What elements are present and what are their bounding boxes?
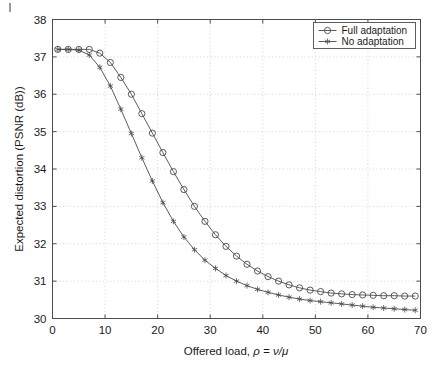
x-tick-label: 40: [256, 324, 269, 336]
chart-plot: 010203040506070303132333435363738 Full a…: [0, 0, 438, 366]
y-tick-label: 33: [34, 200, 47, 212]
y-tick-label: 38: [34, 14, 47, 26]
series-no-adaptation: [55, 46, 418, 313]
y-tick-label: 31: [34, 275, 47, 287]
x-tick-label: 20: [151, 324, 164, 336]
y-tick-label: 32: [34, 238, 47, 250]
x-tick-label: 50: [309, 324, 322, 336]
x-tick-label: 10: [99, 324, 112, 336]
y-tick-label: 30: [34, 313, 47, 325]
data-series-layer: [55, 46, 419, 313]
x-tick-label: 60: [362, 324, 375, 336]
y-tick-label: 35: [34, 126, 47, 138]
y-tick-label: 37: [34, 51, 47, 63]
legend-entry-no-adaptation[interactable]: No adaptation: [342, 36, 404, 47]
x-tick-label: 0: [49, 324, 55, 336]
y-tick-label: 36: [34, 88, 47, 100]
figure-canvas: 010203040506070303132333435363738 Full a…: [0, 0, 438, 366]
y-tick-label: 34: [34, 163, 47, 175]
scan-artifact-mark: [9, 3, 11, 12]
x-axis-label: Offered load, ρ = ν/μ: [184, 345, 289, 357]
x-tick-label: 70: [414, 324, 427, 336]
legend-entry-full-adaptation[interactable]: Full adaptation: [342, 25, 408, 36]
x-tick-label: 30: [204, 324, 217, 336]
y-axis-label: Expected distortion (PSNR (dB)): [13, 86, 25, 252]
chart-legend[interactable]: Full adaptationNo adaptation: [314, 23, 416, 49]
